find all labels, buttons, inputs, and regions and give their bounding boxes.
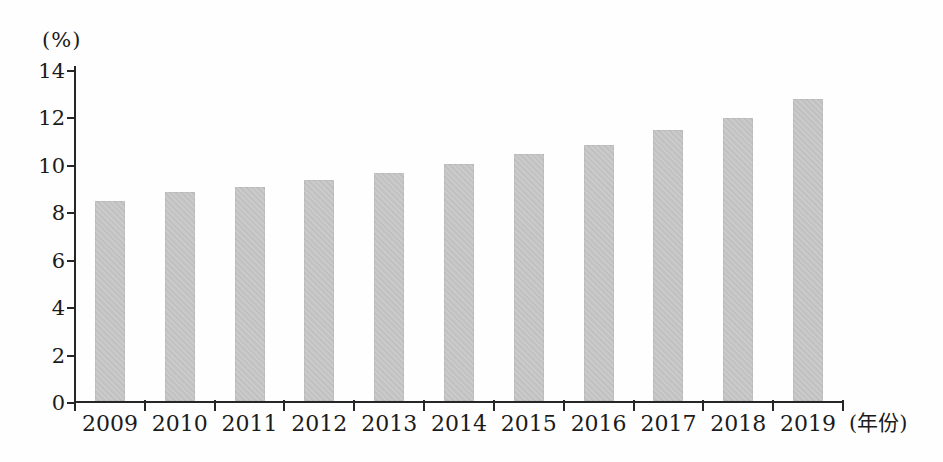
- x-tick-mark: [283, 400, 285, 411]
- y-tick-label: 0: [23, 393, 65, 414]
- bar-2013: [374, 173, 404, 401]
- y-tick-label: 10: [23, 155, 65, 176]
- y-tick-label: 14: [23, 61, 65, 82]
- bar-2014: [444, 164, 474, 402]
- x-tick-label-2017: 2017: [640, 411, 696, 437]
- x-tick-label-2010: 2010: [152, 411, 208, 437]
- x-tick-mark: [74, 400, 76, 411]
- x-tick-mark: [842, 400, 844, 411]
- bar-2011: [235, 187, 265, 401]
- x-tick-mark: [353, 400, 355, 411]
- bar-2009: [95, 201, 125, 401]
- x-tick-label-2019: 2019: [780, 411, 836, 437]
- bar-2017: [653, 130, 683, 401]
- x-tick-label-2009: 2009: [82, 411, 138, 437]
- y-tick-label: 6: [23, 250, 65, 271]
- y-tick-label: 8: [23, 203, 65, 224]
- bar-2010: [165, 192, 195, 401]
- y-tick-mark: [67, 117, 75, 119]
- bar-2019: [793, 99, 823, 401]
- x-tick-label-2012: 2012: [291, 411, 347, 437]
- x-tick-mark: [144, 400, 146, 411]
- x-tick-label-2018: 2018: [710, 411, 766, 437]
- plot-area: 02468101214: [75, 71, 843, 403]
- x-tick-mark: [702, 400, 704, 411]
- x-tick-mark: [772, 400, 774, 411]
- bar-2012: [304, 180, 334, 401]
- y-tick-mark: [67, 165, 75, 167]
- x-tick-mark: [633, 400, 635, 411]
- x-tick-label-2016: 2016: [571, 411, 627, 437]
- y-axis-unit-label: (%): [42, 28, 81, 52]
- x-tick-mark: [423, 400, 425, 411]
- y-tick-label: 4: [23, 298, 65, 319]
- y-tick-mark: [67, 212, 75, 214]
- x-tick-mark: [214, 400, 216, 411]
- y-tick-label: 2: [23, 345, 65, 366]
- bar-chart-figure: (%) 02468101214 200920102011201220132014…: [0, 0, 943, 462]
- bar-2016: [584, 145, 614, 401]
- x-axis-line: [74, 401, 844, 403]
- x-tick-mark: [563, 400, 565, 411]
- y-tick-mark: [67, 70, 75, 72]
- x-tick-mark: [493, 400, 495, 411]
- x-tick-label-2013: 2013: [361, 411, 417, 437]
- y-tick-mark: [67, 307, 75, 309]
- bar-2018: [723, 118, 753, 401]
- x-tick-label-2015: 2015: [501, 411, 557, 437]
- x-tick-label-2011: 2011: [222, 411, 278, 437]
- y-tick-mark: [67, 260, 75, 262]
- x-tick-label-2014: 2014: [431, 411, 487, 437]
- x-axis-unit-label: (年份): [849, 411, 907, 436]
- bar-2015: [514, 154, 544, 401]
- y-tick-mark: [67, 355, 75, 357]
- y-tick-label: 12: [23, 108, 65, 129]
